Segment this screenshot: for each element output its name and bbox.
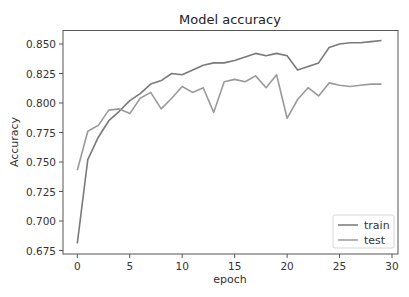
legend-label-test: test: [364, 234, 386, 247]
y-tick-label: 0.775: [26, 127, 56, 139]
y-tick-label: 0.675: [26, 245, 56, 257]
y-axis-ticks: 0.6750.7000.7250.7500.7750.8000.8250.850: [26, 38, 63, 257]
legend-label-train: train: [364, 219, 390, 232]
x-tick-label: 0: [74, 260, 81, 272]
x-tick-label: 5: [126, 260, 133, 272]
y-tick-label: 0.750: [26, 156, 56, 168]
y-tick-label: 0.825: [26, 68, 56, 80]
series-line-test: [77, 75, 381, 171]
y-tick-label: 0.700: [26, 215, 56, 227]
chart-title: Model accuracy: [179, 12, 281, 27]
x-axis-ticks: 051015202530: [74, 254, 399, 272]
x-tick-label: 15: [228, 260, 241, 272]
legend: train test: [333, 215, 394, 248]
x-tick-label: 20: [280, 260, 293, 272]
x-tick-label: 10: [176, 260, 189, 272]
y-tick-label: 0.850: [26, 38, 56, 50]
y-axis-label: Accuracy: [8, 116, 21, 167]
series-line-train: [77, 41, 381, 244]
y-tick-label: 0.725: [26, 186, 56, 198]
x-tick-label: 30: [385, 260, 398, 272]
y-tick-label: 0.800: [26, 97, 56, 109]
plot-area: [77, 41, 381, 244]
x-axis-label: epoch: [213, 273, 247, 286]
accuracy-line-chart: Model accuracy 0.6750.7000.7250.7500.775…: [0, 0, 409, 297]
x-tick-label: 25: [333, 260, 346, 272]
